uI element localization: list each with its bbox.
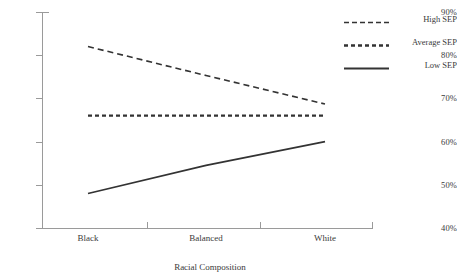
legend-swatch-high-sep xyxy=(344,21,389,24)
series-line-high-sep xyxy=(88,47,325,104)
legend-item-average-sep: Average SEP xyxy=(344,35,457,58)
legend-swatch-low-sep xyxy=(344,67,389,70)
y-tick-80 xyxy=(36,55,43,56)
y-axis-line xyxy=(42,12,43,228)
x-tick-balanced xyxy=(147,222,148,229)
y-tick-label-70: 70% xyxy=(423,93,457,103)
x-axis-title: Racial Composition xyxy=(0,262,420,272)
x-tick-white xyxy=(260,222,261,229)
y-tick-label-50: 50% xyxy=(423,180,457,190)
x-tick-label-white: White xyxy=(280,233,370,243)
legend-label-average-sep: Average SEP xyxy=(396,37,457,47)
legend-label-low-sep: Low SEP xyxy=(396,60,457,70)
y-tick-50 xyxy=(36,185,43,186)
y-tick-label-60: 60% xyxy=(423,137,457,147)
y-tick-60 xyxy=(36,142,43,143)
legend-item-low-sep: Low SEP xyxy=(344,58,457,81)
y-tick-70 xyxy=(36,98,43,99)
legend: High SEP Average SEP Low SEP xyxy=(344,12,457,81)
legend-swatch-average-sep xyxy=(344,44,389,47)
y-tick-label-40: 40% xyxy=(423,223,457,233)
line-chart-figure: 90% 80% 70% 60% 50% 40% Black Balanced W… xyxy=(0,0,457,280)
legend-item-high-sep: High SEP xyxy=(344,12,457,35)
y-axis-top-cap xyxy=(42,12,49,13)
x-axis-line xyxy=(42,228,372,229)
x-tick-label-black: Black xyxy=(43,233,133,243)
series-line-low-sep xyxy=(88,142,325,194)
y-tick-90 xyxy=(36,12,43,13)
x-tick-label-balanced: Balanced xyxy=(161,233,251,243)
x-axis-right-cap xyxy=(372,222,373,229)
legend-label-high-sep: High SEP xyxy=(396,14,457,24)
